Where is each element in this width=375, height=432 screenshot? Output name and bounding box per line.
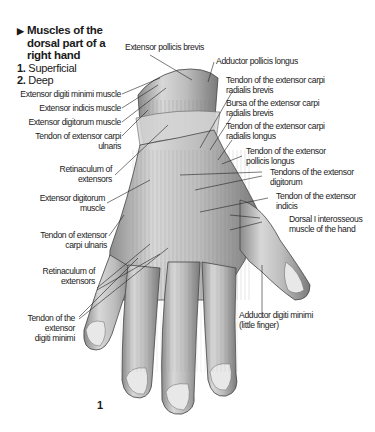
label-tendons-ed: Tendons of the extensordigitorum [270, 167, 354, 187]
figure-number: 1 [97, 399, 103, 411]
label-extensor-digiti-minimi-muscle: Extensor digiti minimi muscle [20, 89, 121, 99]
label-bursa-ecr-brevis: Bursa of the extensor carpiradialis brev… [226, 98, 319, 118]
label-tendon-ecr-longus: Tendon of the extensor carpiradialis lon… [226, 121, 325, 141]
label-extensor-digitorum-muscle-2: Extensor digitorummuscle [40, 193, 105, 213]
triangle-bullet-icon: ▶ [17, 25, 24, 38]
label-adductor-pollicis-longus: Adductor pollicis longus [216, 56, 298, 66]
label-tendon-ecr-brevis: Tendon of the extensor carpiradialis bre… [226, 75, 325, 95]
label-extensor-indicis-muscle: Extensor indicis muscle [39, 103, 121, 113]
label-tendon-epl: Tendon of the extensorpollicis longus [246, 146, 326, 166]
label-extensor-pollicis-brevis: Extensor pollicis brevis [125, 42, 204, 52]
legend-item-superficial: 1. Superficial [17, 62, 117, 74]
label-extensor-digitorum-muscle: Extensor digitorum muscle [28, 117, 121, 127]
label-retinaculum-1: Retinaculum ofextensors [60, 164, 112, 184]
label-tendon-ecu-2: Tendon of extensorcarpi ulnaris [40, 230, 107, 250]
label-tendon-ecu-1: Tendon of extensor carpiulnaris [35, 131, 121, 151]
title-block: ▶ Muscles of the dorsal part of a right … [17, 24, 117, 86]
label-tendon-ei: Tendon of the extensorindicis [276, 191, 356, 211]
label-retinaculum-2: Retinaculum ofextensors [43, 266, 95, 286]
legend-item-deep: 2. Deep [17, 74, 117, 86]
label-dorsal-interosseous: Dorsal I interosseousmuscle of the hand [289, 214, 362, 234]
label-adductor-digiti-minimi: Adductor digiti minimi(little finger) [239, 310, 313, 330]
diagram-title: ▶ Muscles of the dorsal part of a right … [17, 24, 117, 62]
label-tendon-edm: Tendon of theextensordigiti minimi [27, 313, 75, 344]
